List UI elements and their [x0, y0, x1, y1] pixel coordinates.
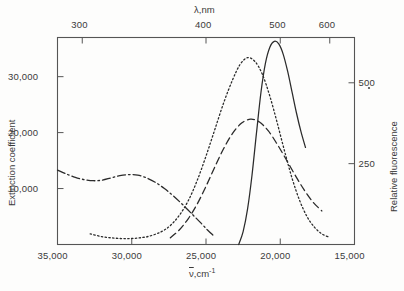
right-tick-label-250: 250 — [359, 158, 375, 169]
bottom-axis-exponent: -1 — [209, 267, 215, 274]
top-tick-label-600: 600 — [319, 19, 335, 30]
curve-fluorescence-solid — [239, 41, 306, 244]
spectral-curves — [58, 41, 330, 244]
bottom-tick-label-20000: 20,000 — [260, 250, 290, 261]
curve-absorption-dash-dot — [58, 170, 214, 235]
bottom-tick-label-15000: 15,000 — [335, 250, 365, 261]
left-tick-label-30000: 30,000 — [8, 71, 38, 82]
top-tick-label-300: 300 — [71, 19, 87, 30]
left-axis-title: Extinction coefficient — [6, 120, 17, 206]
right-tick-label-500: 500 — [359, 77, 375, 88]
top-axis-ticks — [82, 38, 330, 44]
top-tick-label-400: 400 — [195, 19, 211, 30]
bottom-axis-unit: ,cm — [194, 268, 209, 279]
right-axis-title: Relative fluorescence — [388, 121, 399, 212]
top-tick-label-500: 500 — [269, 19, 285, 30]
bottom-tick-label-30000: 30,000 — [112, 250, 142, 261]
plot-frame — [58, 38, 355, 245]
right-axis-ticks — [349, 83, 355, 164]
plot-canvas — [0, 0, 404, 291]
spectroscopy-figure: 300 400 500 600 λ,nm 35,000 30,000 25,00… — [0, 0, 404, 291]
bottom-axis-title: ν,cm-1 — [189, 267, 215, 279]
bottom-tick-label-25000: 25,000 — [186, 250, 216, 261]
top-axis-title: λ,nm — [194, 4, 215, 15]
bottom-axis-ticks — [132, 239, 281, 245]
bottom-tick-label-35000: 35,000 — [38, 250, 68, 261]
curve-absorption-dotted — [90, 58, 329, 239]
